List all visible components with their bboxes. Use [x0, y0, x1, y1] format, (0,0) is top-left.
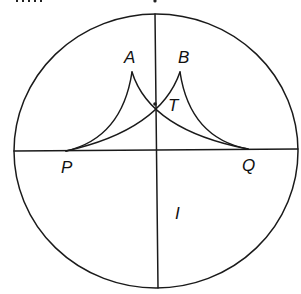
label-t: T	[168, 96, 180, 115]
curve-a-right	[132, 72, 248, 149]
point-t-marker	[153, 102, 157, 106]
curve-a-left	[66, 72, 132, 151]
diagram: A B T P Q I	[0, 0, 301, 294]
curve-b-left	[66, 72, 180, 151]
vertical-axis	[155, 14, 158, 288]
cutoff-caption-fragment	[16, 0, 157, 3]
curve-b-right	[180, 72, 248, 149]
label-p: P	[61, 158, 73, 177]
label-a: A	[123, 48, 135, 67]
label-i: I	[175, 204, 180, 223]
label-q: Q	[242, 156, 255, 175]
label-b: B	[178, 48, 189, 67]
